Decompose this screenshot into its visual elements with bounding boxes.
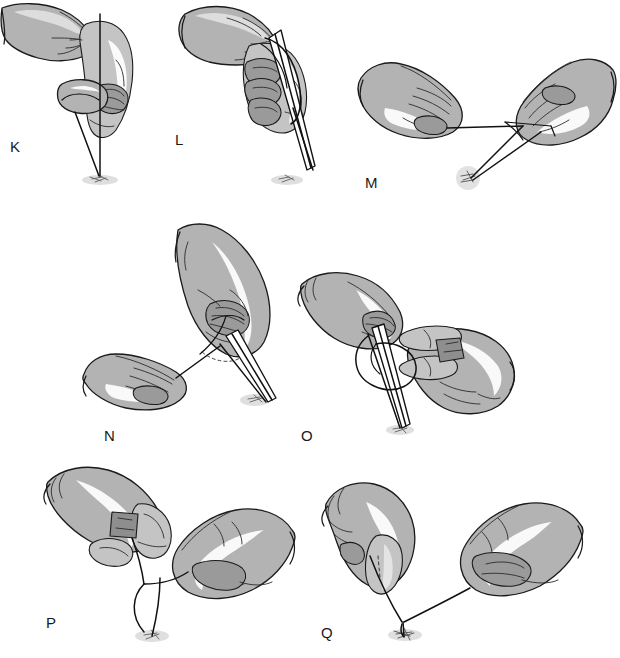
panel-label-N: N <box>104 428 115 443</box>
panel-label-L: L <box>175 132 184 147</box>
surgical-technique-figure: K <box>0 0 620 658</box>
panel-label-M: M <box>365 175 378 190</box>
thumb <box>89 539 133 567</box>
suture-thread-descending <box>152 578 160 636</box>
panel-K: K <box>0 0 175 200</box>
panel-N: N <box>80 220 300 445</box>
panel-label-Q: Q <box>321 625 333 640</box>
panel-P: P <box>20 460 295 658</box>
panel-O-illustration <box>290 262 520 447</box>
panel-K-illustration <box>0 0 175 200</box>
suture-thread-knot-stem <box>403 622 404 636</box>
panel-Q-illustration <box>300 460 585 658</box>
index-finger <box>131 504 171 559</box>
panel-label-P: P <box>46 615 56 630</box>
panel-L: L <box>165 0 345 200</box>
panel-O: O <box>290 262 520 447</box>
thumb <box>340 542 364 564</box>
panel-label-K: K <box>10 139 20 154</box>
suture-thread-down-right <box>473 132 541 180</box>
suture-thread-right <box>404 588 470 622</box>
upper-hand <box>177 224 270 357</box>
panel-Q: Q <box>300 460 585 658</box>
panel-M-illustration <box>355 40 620 210</box>
needle-body <box>110 512 138 538</box>
panel-label-O: O <box>301 428 313 443</box>
panel-M: M <box>355 40 620 210</box>
panel-L-illustration <box>165 0 345 200</box>
panel-P-illustration <box>20 460 295 658</box>
suture-thread-left-loop <box>134 584 144 632</box>
suture-thread-down-left <box>471 126 523 178</box>
suture-thread-to-instrument <box>176 346 220 378</box>
panel-N-illustration <box>80 220 300 445</box>
